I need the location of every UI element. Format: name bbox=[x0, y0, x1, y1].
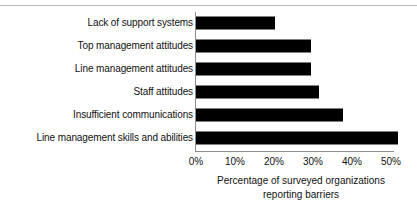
bar bbox=[196, 40, 311, 53]
bar bbox=[196, 63, 311, 76]
category-label: Lack of support systems bbox=[87, 17, 193, 29]
bar-track bbox=[196, 86, 394, 99]
bar-track bbox=[196, 17, 394, 30]
x-tick-label: 20% bbox=[264, 155, 284, 168]
x-tick-label: 30% bbox=[303, 155, 323, 168]
bar-row: Top management attitudes bbox=[0, 35, 417, 57]
category-label: Line management skills and abilities bbox=[37, 132, 194, 144]
bar-track bbox=[196, 132, 394, 145]
bar bbox=[196, 86, 319, 99]
bar-row: Lack of support systems bbox=[0, 12, 417, 34]
category-label: Insufficient communications bbox=[73, 109, 193, 121]
page-top-rule bbox=[0, 5, 417, 6]
x-axis-title-line-1: Percentage of surveyed organizations bbox=[196, 174, 406, 188]
category-label: Staff attitudes bbox=[134, 86, 193, 98]
y-axis-line bbox=[195, 12, 196, 152]
x-axis-line bbox=[195, 151, 394, 152]
x-tick-label: 50% bbox=[381, 155, 401, 168]
bar-track bbox=[196, 40, 394, 53]
bar-row: Line management skills and abilities bbox=[0, 127, 417, 149]
x-axis-title-line-2: reporting barriers bbox=[196, 188, 406, 202]
bar-chart-figure: Lack of support systems Top management a… bbox=[0, 0, 417, 215]
category-label: Top management attitudes bbox=[78, 40, 193, 52]
x-tick-label: 40% bbox=[342, 155, 362, 168]
bar-track bbox=[196, 63, 394, 76]
category-label: Line management attitudes bbox=[75, 63, 193, 75]
bar bbox=[196, 109, 343, 122]
x-tick-label: 10% bbox=[225, 155, 245, 168]
bar-row: Insufficient communications bbox=[0, 104, 417, 126]
x-axis-tick-labels: 0% 10% 20% 30% 40% 50% bbox=[0, 155, 417, 169]
x-axis-title: Percentage of surveyed organizations rep… bbox=[196, 174, 406, 202]
bar-row: Line management attitudes bbox=[0, 58, 417, 80]
bar-row: Staff attitudes bbox=[0, 81, 417, 103]
plot-area: Lack of support systems Top management a… bbox=[0, 12, 417, 148]
x-tick-label: 0% bbox=[189, 155, 203, 168]
bar bbox=[196, 17, 275, 30]
bar bbox=[196, 132, 398, 145]
bar-track bbox=[196, 109, 394, 122]
